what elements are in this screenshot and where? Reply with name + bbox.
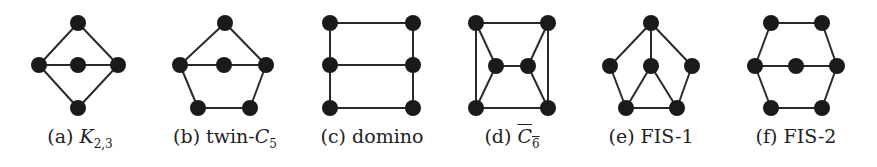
graph-edge [78,65,118,108]
caption-prefix: (e) FIS-1 [608,125,693,147]
graph-vertex [70,100,86,116]
caption-math: C [255,125,270,147]
graph-vertex [242,100,258,116]
caption-e: (e) FIS-1 [608,125,693,147]
graph-vertex [322,57,338,73]
graph-vertex [618,100,634,116]
graph-vertex [829,58,845,74]
graph-edge [78,23,118,65]
caption-d: (d) C6 [484,125,539,151]
graph-vertex [322,100,338,116]
graph-edge [610,23,651,66]
graph-vertex [190,100,206,116]
graph-vertex [31,57,47,73]
caption-prefix: (c) domino [321,125,424,147]
graph-edge [39,65,78,108]
caption-subscript: 5 [269,137,277,151]
graph-edge [39,23,78,65]
graph-vertex [468,100,484,116]
graph-vertex [172,57,188,73]
graph-vertex [684,58,700,74]
graph-vertex [70,57,86,73]
graph-vertex [520,58,536,74]
caption-subscript: 2,3 [94,137,113,151]
graph-vertex [540,100,556,116]
graph-vertex [258,57,274,73]
graph-edge [651,23,692,66]
graph-vertex [405,57,421,73]
graph-vertex [216,57,232,73]
caption-prefix: (a) [47,125,79,147]
graph-vertex [110,57,126,73]
graph-vertex [763,100,779,116]
caption-prefix: (d) [484,125,517,147]
graph-vertex [602,58,618,74]
caption-a: (a) K2,3 [47,125,113,151]
graph-d [468,15,556,116]
graph-vertex [540,15,556,31]
graph-vertex [468,15,484,31]
graph-vertex [70,15,86,31]
graph-vertex [488,58,504,74]
caption-f: (f) FIS-2 [756,125,837,147]
caption-b: (b) twin-C5 [173,125,277,151]
graph-vertex [763,15,779,31]
graph-edge [225,23,266,65]
graph-vertex [643,15,659,31]
graph-vertex [405,15,421,31]
graph-vertex [322,15,338,31]
graph-vertex [405,100,421,116]
graph-figure-panel [0,0,877,167]
caption-subscript: 6 [532,137,540,151]
graph-vertex [814,100,830,116]
graph-b [172,15,274,116]
graph-a [31,15,126,116]
caption-prefix: (b) twin- [173,125,255,147]
graph-c [322,15,421,116]
graph-vertex [814,15,830,31]
graph-vertex [747,58,763,74]
graph-f [747,15,845,116]
graph-vertex [643,58,659,74]
graph-vertex [788,58,804,74]
graph-vertex [669,100,685,116]
graph-edge [180,23,225,65]
caption-math: C [517,125,532,147]
graph-vertex [217,15,233,31]
caption-prefix: (f) FIS-2 [756,125,837,147]
graph-e [602,15,700,116]
caption-math: K [79,125,93,147]
caption-c: (c) domino [321,125,424,147]
